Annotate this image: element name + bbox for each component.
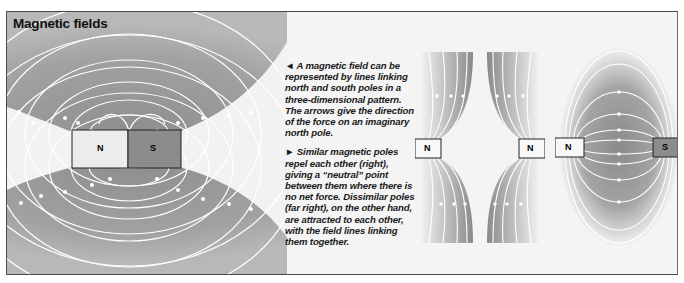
bar-magnet-diagram: N S Magnetic fields [7,12,287,274]
attract-north-pole-label: N [565,142,572,152]
north-pole-label: N [97,143,104,153]
caption-paragraph-poles: ► Similar magnetic poles repel each othe… [285,146,415,247]
attracting-poles-diagram: N S [555,12,678,274]
repel-left-pole-label: N [424,143,431,153]
caption-text: ◄ A magnetic field can be represented by… [285,60,415,255]
caption-paragraph-field-lines: ◄ A magnetic field can be represented by… [285,60,415,138]
figure-frame: N S Magnetic fields ◄ A magnetic field c… [6,11,678,275]
south-pole-label: S [150,143,156,153]
attracting-field-illustration [555,12,678,274]
repel-right-pole-label: N [527,143,534,153]
attract-south-pole-label: S [662,142,668,152]
page-title: Magnetic fields [13,16,108,31]
bar-magnet [72,130,181,168]
repelling-poles-diagram: N N [415,12,545,274]
repelling-field-illustration [415,12,545,274]
bar-magnet-field-illustration [7,12,287,274]
